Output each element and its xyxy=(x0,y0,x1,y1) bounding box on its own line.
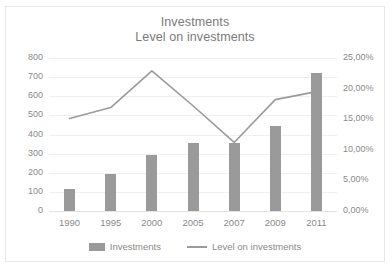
axis-baseline xyxy=(49,211,337,212)
chart-title: Investments xyxy=(6,15,384,30)
left-axis-tick-label: 400 xyxy=(9,130,43,139)
left-axis-tick-label: 800 xyxy=(9,53,43,62)
line-series xyxy=(49,58,337,211)
left-axis-tick-label: 0 xyxy=(9,206,43,215)
left-axis-tick-label: 100 xyxy=(9,187,43,196)
legend-item-investments[interactable]: Investments xyxy=(89,241,161,252)
legend-item-level-on-investments[interactable]: Level on investments xyxy=(187,241,301,252)
x-axis-tick-label: 2005 xyxy=(173,218,213,228)
x-axis-tick-label: 1990 xyxy=(50,218,90,228)
right-axis-tick-label: 20,00% xyxy=(343,84,389,93)
x-axis-tick-label: 2007 xyxy=(214,218,254,228)
chart-subtitle: Level on investments xyxy=(6,30,384,45)
legend-label-investments: Investments xyxy=(110,241,161,252)
left-axis-tick-label: 600 xyxy=(9,91,43,100)
right-axis-tick-label: 25,00% xyxy=(343,53,389,62)
left-axis-tick-label: 500 xyxy=(9,110,43,119)
x-axis-tick-label: 2011 xyxy=(296,218,336,228)
legend-label-level-on-investments: Level on investments xyxy=(212,241,301,252)
line-swatch-icon xyxy=(187,246,207,248)
right-axis-tick-label: 0,00% xyxy=(343,206,389,215)
left-axis-tick-label: 200 xyxy=(9,168,43,177)
bar-swatch-icon xyxy=(89,243,105,251)
left-axis-tick-label: 300 xyxy=(9,149,43,158)
left-axis-tick-label: 700 xyxy=(9,72,43,81)
x-axis-tick-label: 2009 xyxy=(255,218,295,228)
chart-legend: Investments Level on investments xyxy=(6,241,384,252)
x-axis-tick-label: 2000 xyxy=(132,218,172,228)
chart-title-block: Investments Level on investments xyxy=(6,15,384,45)
chart-container: Investments Level on investments 0100200… xyxy=(5,6,385,262)
right-axis-tick-label: 5,00% xyxy=(343,175,389,184)
plot-area xyxy=(49,58,337,211)
right-axis-tick-label: 15,00% xyxy=(343,114,389,123)
x-axis-tick-label: 1995 xyxy=(91,218,131,228)
line-series-svg xyxy=(49,58,337,211)
right-axis-tick-label: 10,00% xyxy=(343,145,389,154)
